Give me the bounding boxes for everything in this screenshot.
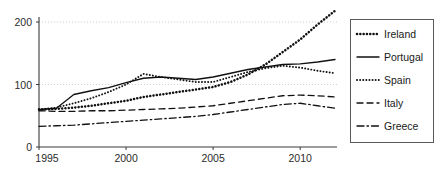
x-tick-label-2010: 2010: [288, 152, 312, 164]
legend: IrelandPortugalSpainItalyGreece: [351, 20, 434, 143]
chart-figure: 200 100 0 1995 2000 2005 2010 IrelandPor…: [0, 0, 442, 178]
series-line-ireland: [39, 11, 335, 110]
series-lines: [39, 11, 335, 127]
x-axis-tick-labels: 1995 2000 2005 2010: [35, 152, 312, 164]
axis-tickmarks: [36, 22, 300, 150]
legend-label-greece: Greece: [384, 120, 419, 132]
axes: [36, 17, 337, 150]
line-chart-canvas: 200 100 0 1995 2000 2005 2010 IrelandPor…: [0, 0, 442, 178]
y-tick-label-0: 0: [26, 141, 32, 153]
series-line-spain: [39, 66, 335, 110]
x-tick-label-1995: 1995: [35, 152, 59, 164]
series-line-greece: [39, 103, 335, 126]
legend-label-spain: Spain: [384, 74, 411, 86]
y-tick-label-200: 200: [14, 16, 32, 28]
legend-label-portugal: Portugal: [384, 51, 423, 63]
x-tick-label-2005: 2005: [201, 152, 225, 164]
legend-label-italy: Italy: [384, 97, 404, 109]
legend-label-ireland: Ireland: [384, 28, 416, 40]
y-tick-label-100: 100: [14, 79, 32, 91]
x-tick-label-2000: 2000: [114, 152, 138, 164]
y-axis-tick-labels: 200 100 0: [14, 16, 32, 153]
series-line-italy: [39, 95, 335, 111]
gridlines: [39, 22, 337, 85]
